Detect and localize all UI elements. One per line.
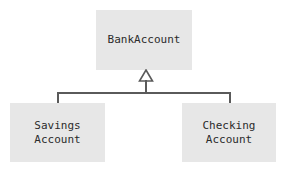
class-name-checkingaccount: Checking Account (203, 119, 256, 147)
class-box-bankaccount[interactable]: BankAccount (96, 10, 192, 70)
uml-class-diagram: BankAccount Savings Account Checking Acc… (0, 0, 284, 177)
class-name-savingsaccount: Savings Account (34, 119, 80, 147)
connector-crossbar-horizontal (57, 92, 231, 94)
class-box-checkingaccount[interactable]: Checking Account (182, 103, 276, 162)
class-box-savingsaccount[interactable]: Savings Account (10, 103, 105, 162)
class-name-bankaccount: BankAccount (108, 33, 181, 47)
